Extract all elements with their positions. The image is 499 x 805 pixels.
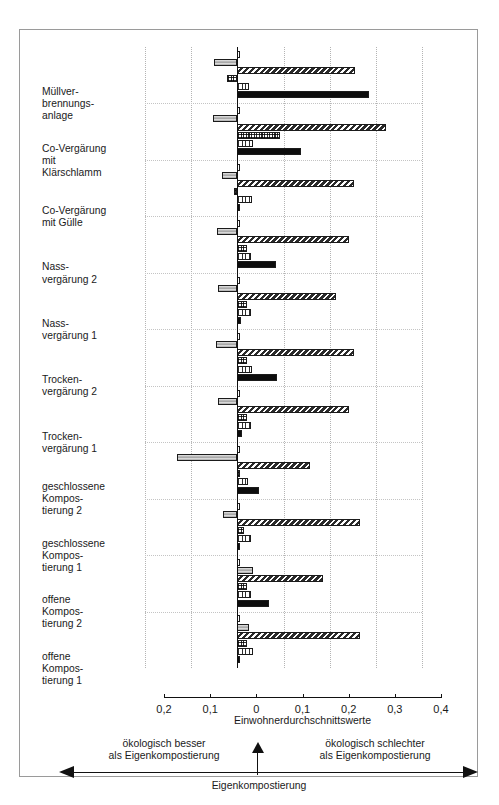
category-label: Nass- vergärung 1 — [42, 318, 160, 342]
bar-vertical-stripe — [237, 422, 251, 429]
figure-frame: Müllver- brennungs- anlageCo-Vergärung m… — [19, 29, 478, 777]
horizontal-gridline — [145, 160, 422, 161]
bar-gray — [217, 228, 238, 235]
direction-annotation: ökologisch besser als Eigenkompostierung… — [39, 730, 498, 805]
bar-gray — [216, 341, 237, 348]
bar-vertical-stripe — [237, 478, 248, 485]
bar-gray — [218, 398, 237, 405]
x-tick — [395, 694, 396, 698]
bar-group — [145, 503, 422, 552]
bar-gray — [177, 454, 237, 461]
horizontal-gridline — [145, 612, 422, 613]
bar-group — [145, 164, 422, 213]
bar-diagonal-hatch — [237, 519, 359, 526]
bar-checker — [237, 414, 246, 421]
annotation-axis-line — [73, 772, 463, 773]
bar-diagonal-hatch — [237, 124, 386, 131]
arrow-left-icon — [59, 766, 74, 778]
vertical-gridline — [422, 47, 423, 668]
bar-vertical-stripe — [237, 253, 251, 260]
category-label: offene Kompos- tierung 1 — [42, 651, 160, 687]
bar-gray — [237, 567, 252, 574]
category-label: geschlossene Kompos- tierung 2 — [42, 481, 160, 517]
bar-group — [145, 446, 422, 495]
bar-group — [145, 390, 422, 439]
bar-checker — [237, 132, 279, 139]
bar-group — [145, 333, 422, 382]
bar-gray — [223, 511, 237, 518]
x-axis: 0,20,100,10,20,30,4 — [164, 697, 441, 698]
annotation-left-text: ökologisch besser als Eigenkompostierung — [79, 738, 249, 763]
category-label: geschlossene Kompos- tierung 1 — [42, 538, 160, 574]
category-label: offene Kompos- tierung 2 — [42, 594, 160, 630]
bar-diagonal-hatch — [237, 575, 322, 582]
bar-vertical-stripe — [237, 83, 249, 90]
bar-vertical-stripe — [237, 196, 252, 203]
bar-checker — [237, 245, 246, 252]
bar-checker — [237, 301, 246, 308]
x-tick — [349, 694, 350, 698]
bar-checker — [237, 583, 246, 590]
bar-diagonal-hatch — [237, 293, 335, 300]
category-label: Trocken- vergärung 1 — [42, 431, 160, 455]
bar-diagonal-hatch — [237, 462, 310, 469]
annotation-right-text: ökologisch schlechter als Eigenkompostie… — [280, 738, 470, 763]
x-tick — [164, 694, 165, 698]
x-tick — [256, 694, 257, 698]
bar-group — [145, 107, 422, 156]
x-tick — [303, 694, 304, 698]
bar-group — [145, 277, 422, 326]
bar-diagonal-hatch — [237, 406, 349, 413]
x-tick — [210, 694, 211, 698]
bar-group — [145, 51, 422, 100]
bar-group — [145, 220, 422, 269]
x-axis-title: Einwohnerdurchschnittswerte — [164, 714, 441, 726]
bar-checker — [237, 640, 246, 647]
bar-vertical-stripe — [237, 309, 250, 316]
bar-vertical-stripe — [237, 591, 250, 598]
x-tick — [441, 694, 442, 698]
category-label: Nass- vergärung 2 — [42, 261, 160, 285]
bar-gray — [222, 172, 238, 179]
horizontal-gridline — [145, 386, 422, 387]
bar-black — [237, 487, 259, 494]
horizontal-gridline — [145, 499, 422, 500]
horizontal-gridline — [145, 103, 422, 104]
category-label: Co-Vergärung mit Gülle — [42, 205, 160, 229]
bar-checker — [237, 357, 247, 364]
category-label: Trocken- vergärung 2 — [42, 374, 160, 398]
bar-checker — [227, 75, 237, 82]
zero-axis-line — [237, 47, 238, 668]
bar-vertical-stripe — [237, 140, 253, 147]
bar-group — [145, 559, 422, 608]
bar-black — [237, 261, 276, 268]
horizontal-gridline — [145, 555, 422, 556]
bar-diagonal-hatch — [237, 632, 359, 639]
bar-diagonal-hatch — [237, 236, 348, 243]
bar-vertical-stripe — [237, 366, 251, 373]
bar-vertical-stripe — [237, 535, 251, 542]
bar-gray — [213, 115, 237, 122]
bar-diagonal-hatch — [237, 67, 355, 74]
horizontal-gridline — [145, 442, 422, 443]
bar-vertical-stripe — [237, 648, 252, 655]
category-label: Müllver- brennungs- anlage — [42, 86, 160, 122]
bar-gray — [218, 285, 237, 292]
horizontal-gridline — [145, 273, 422, 274]
bar-group — [145, 615, 422, 664]
bar-gray — [214, 59, 237, 66]
horizontal-gridline — [145, 216, 422, 217]
category-label: Co-Vergärung mit Klärschlamm — [42, 143, 160, 179]
plot-area — [145, 47, 422, 668]
bar-diagonal-hatch — [237, 180, 353, 187]
bar-gray — [237, 624, 249, 631]
annotation-center-text: Eigenkompostierung — [159, 780, 359, 792]
arrow-right-icon — [463, 766, 478, 778]
bar-black — [237, 148, 300, 155]
bar-diagonal-hatch — [237, 349, 353, 356]
arrow-up-icon — [252, 742, 264, 753]
bar-black — [237, 91, 369, 98]
bar-black — [237, 600, 269, 607]
bar-black — [237, 374, 277, 381]
horizontal-gridline — [145, 329, 422, 330]
